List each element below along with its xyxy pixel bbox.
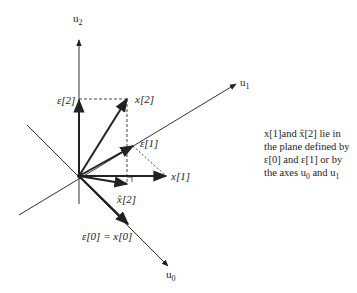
xhat2-label: x̂[2] (116, 193, 136, 205)
eps1-vector (79, 146, 133, 176)
caption-text: x[1]and x̂[2] lie in the plane defined b… (264, 127, 357, 183)
u1-label: u1 (240, 76, 250, 91)
eps1-label: ε[1] (140, 137, 158, 149)
u0-label: u0 (166, 268, 176, 283)
u2-label: u2 (73, 12, 83, 27)
caption-line-3: ε[0] and ε[1] or by (264, 153, 357, 166)
caption-line-4: the axes u0 and u1 (264, 166, 357, 183)
caption-line-1: x[1]and x̂[2] lie in (264, 127, 357, 140)
eps0-label: ε[0] = x[0] (82, 230, 132, 242)
caption-line-2: the plane defined by (264, 140, 357, 153)
eps2-label: ε[2] (57, 94, 75, 106)
right-angle-marker (127, 177, 132, 182)
x1-label: x[1] (170, 170, 190, 182)
x2-label: x[2] (134, 93, 154, 105)
dashed-eps1-x1 (133, 146, 165, 175)
origin-point (77, 174, 81, 178)
